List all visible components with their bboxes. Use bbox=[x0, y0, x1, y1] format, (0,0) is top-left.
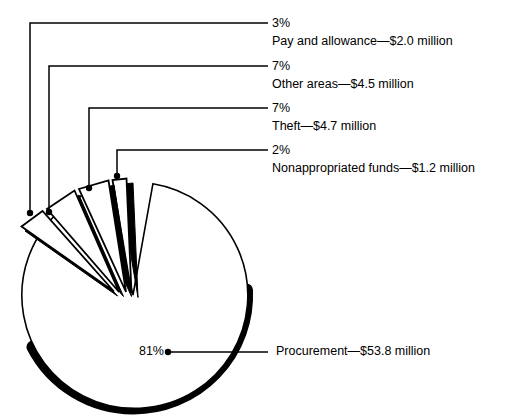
leader-dot-procurement bbox=[165, 349, 171, 355]
pie-chart-figure: 3% Pay and allowance—$2.0 million 7% Oth… bbox=[0, 0, 528, 419]
callout-percent-procurement: 81% bbox=[128, 344, 164, 358]
leader-dot-pay-and-allowance bbox=[27, 210, 33, 216]
callout-theft: 7% Theft—$4.7 million bbox=[272, 100, 376, 136]
callout-description-other-areas: Other areas—$4.5 million bbox=[272, 76, 414, 94]
callout-description-theft: Theft—$4.7 million bbox=[272, 118, 376, 136]
callout-description-nonappropriated-funds: Nonappropriated funds—$1.2 million bbox=[272, 160, 475, 178]
leader-dot-nonappropriated-funds bbox=[114, 173, 120, 179]
callout-nonappropriated-funds: 2% Nonappropriated funds—$1.2 million bbox=[272, 142, 475, 178]
leader-dot-theft bbox=[86, 185, 92, 191]
leader-line-pay-and-allowance bbox=[30, 23, 268, 213]
callout-description-procurement: Procurement—$53.8 million bbox=[276, 344, 430, 358]
callout-percent-nonappropriated-funds: 2% bbox=[272, 142, 475, 160]
leader-line-nonappropriated-funds bbox=[117, 150, 268, 176]
pie-chart-graphic bbox=[0, 0, 528, 419]
leader-dot-other-areas bbox=[46, 209, 52, 215]
callout-percent-other-areas: 7% bbox=[272, 58, 414, 76]
callout-percent-pay-and-allowance: 3% bbox=[272, 15, 453, 33]
callout-pay-and-allowance: 3% Pay and allowance—$2.0 million bbox=[272, 15, 453, 51]
callout-percent-theft: 7% bbox=[272, 100, 376, 118]
callout-description-pay-and-allowance: Pay and allowance—$2.0 million bbox=[272, 33, 453, 51]
callout-other-areas: 7% Other areas—$4.5 million bbox=[272, 58, 414, 94]
